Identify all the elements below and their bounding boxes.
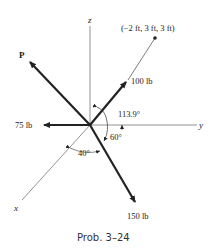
figure-caption: Prob. 3–24 [77, 232, 130, 243]
y-axis-label: y [198, 120, 203, 130]
arc-113-9 [97, 107, 108, 141]
force-P-arrow [30, 62, 90, 125]
force-100-label: 100 lb [131, 76, 153, 86]
force-150-label: 150 lb [127, 211, 149, 221]
x-axis [22, 125, 90, 200]
point-marker [153, 36, 157, 40]
angle-40-label: 40° [78, 148, 90, 158]
point-label: (−2 ft, 3 ft, 3 ft) [121, 23, 175, 33]
force-P-label: P [19, 50, 25, 60]
z-axis-label: z [87, 15, 92, 25]
x-axis-label: x [13, 203, 18, 213]
angle-60-label: 60° [110, 132, 122, 142]
position-line [128, 38, 155, 80]
angle-113-9-label: 113.9° [118, 109, 140, 119]
force-diagram: z y x (−2 ft, 3 ft, 3 ft) P 100 lb 75 lb… [0, 0, 215, 249]
force-75-label: 75 lb [15, 120, 32, 130]
